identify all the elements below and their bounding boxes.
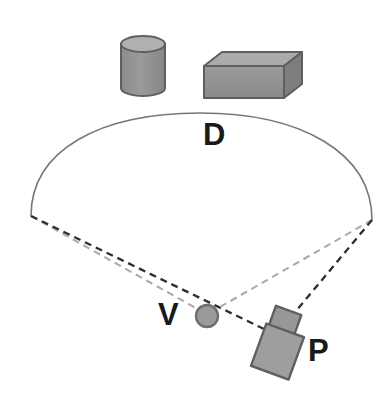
label-detection-arc: D: [203, 119, 225, 150]
cylinder-top-face: [121, 36, 165, 52]
label-pedestrian-vehicle: P: [308, 335, 329, 366]
cylinder-obstacle: [121, 36, 165, 96]
sightline-right-edge-to-vehicle: [213, 220, 372, 311]
pedestrian-vehicle-marker-group: [251, 305, 311, 380]
vehicle-marker-group: [196, 305, 218, 327]
box-front-face: [204, 66, 284, 98]
sightline-right-edge-to-pedestrian-vehicle: [291, 220, 372, 317]
detection-arc: [31, 113, 372, 220]
diagram-canvas: D V P: [0, 0, 385, 393]
label-vehicle: V: [158, 299, 179, 330]
box-obstacle: [204, 52, 302, 98]
vehicle-marker: [196, 305, 218, 327]
detection-arc-group: [31, 113, 372, 220]
sightline-left-edge-to-pedestrian-vehicle: [31, 216, 268, 331]
